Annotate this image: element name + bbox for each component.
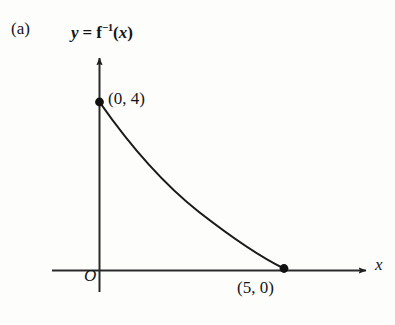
- point-marker-y-intercept: [95, 98, 104, 107]
- figure-container: (a) y=f−1(x) (0, 4) (5, 0) O x: [0, 0, 395, 325]
- graph-canvas: [0, 0, 395, 325]
- inverse-function-curve: [100, 102, 285, 269]
- x-axis-label: x: [375, 256, 383, 273]
- function-label-exponent: −1: [102, 21, 113, 33]
- point-marker-x-intercept: [280, 264, 289, 273]
- point-label-x-intercept: (5, 0): [237, 279, 274, 296]
- origin-label: O: [84, 267, 96, 284]
- function-label-paren-close: ): [127, 23, 133, 42]
- function-equation-label: y=f−1(x): [71, 22, 133, 41]
- part-label: (a): [11, 20, 30, 37]
- function-label-arg: x: [119, 23, 128, 42]
- function-label-lhs: y: [71, 23, 79, 42]
- function-label-equals: =: [83, 23, 93, 42]
- point-label-y-intercept: (0, 4): [108, 90, 145, 107]
